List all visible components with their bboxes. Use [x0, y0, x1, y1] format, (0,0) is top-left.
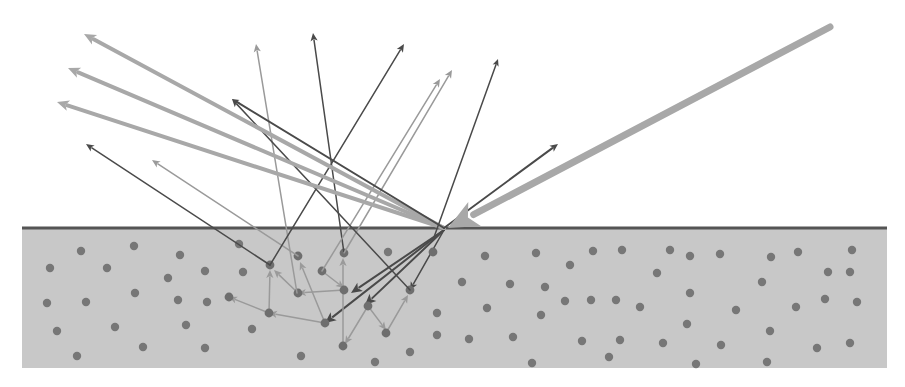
substrate	[22, 228, 887, 368]
particle-dot	[541, 283, 549, 291]
particle-dot	[239, 268, 247, 276]
particle-dot	[433, 309, 441, 317]
particle-dot	[659, 339, 667, 347]
particle-dot	[77, 247, 85, 255]
particle-dot	[758, 278, 766, 286]
network-particle-dot	[340, 286, 349, 295]
particle-dot	[164, 274, 172, 282]
particle-dot	[73, 352, 81, 360]
network-particle-dot	[364, 302, 373, 311]
particle-dot	[686, 252, 694, 260]
ray-shaft	[344, 76, 448, 253]
particle-dot	[686, 289, 694, 297]
particle-dot	[139, 343, 147, 351]
particle-dot	[458, 278, 466, 286]
particle-dot	[103, 264, 111, 272]
reflected-ray-arrow	[84, 34, 444, 228]
particle-dot	[846, 268, 854, 276]
ray-shaft	[94, 39, 444, 228]
particle-dot	[176, 251, 184, 259]
network-particle-dot	[265, 309, 274, 318]
particle-dot	[589, 247, 597, 255]
arrowhead-icon	[86, 144, 95, 151]
particle-dot	[853, 298, 861, 306]
particle-dot	[846, 339, 854, 347]
particle-dot	[766, 327, 774, 335]
arrowhead-icon	[433, 79, 440, 88]
particle-dot	[131, 289, 139, 297]
network-particle-dot	[294, 289, 303, 298]
particle-dot	[384, 248, 392, 256]
particle-dot	[43, 299, 51, 307]
particle-dot	[732, 306, 740, 314]
particle-dot	[82, 298, 90, 306]
particle-dot	[53, 327, 61, 335]
particle-dot	[716, 250, 724, 258]
particle-dot	[763, 358, 771, 366]
particle-dot	[813, 344, 821, 352]
particle-dot	[692, 360, 700, 368]
particle-dot	[636, 303, 644, 311]
particle-dot	[561, 297, 569, 305]
particle-dot	[618, 246, 626, 254]
particle-dot	[433, 331, 441, 339]
particle-dot	[792, 303, 800, 311]
particle-dot	[203, 298, 211, 306]
particle-dot	[666, 246, 674, 254]
particle-dot	[465, 335, 473, 343]
particle-dot	[481, 252, 489, 260]
particle-dot	[111, 323, 119, 331]
network-particle-dot	[339, 342, 348, 351]
particle-dot	[371, 358, 379, 366]
particle-dot	[605, 353, 613, 361]
particle-dot	[174, 296, 182, 304]
particle-dot	[821, 295, 829, 303]
ray-shaft	[269, 277, 270, 313]
reflected-ray-arrow	[68, 68, 444, 228]
particle-dot	[509, 333, 517, 341]
ray-shaft	[314, 40, 344, 253]
emerging-ray-arrow	[311, 33, 344, 253]
incident-ray-arrow	[448, 27, 830, 228]
particle-dot	[46, 264, 54, 272]
particle-dot	[528, 359, 536, 367]
particle-dot	[612, 296, 620, 304]
particle-dot	[616, 336, 624, 344]
diagram-canvas	[0, 0, 905, 387]
particle-dot	[683, 320, 691, 328]
particle-dot	[566, 261, 574, 269]
substrate-block	[22, 228, 887, 368]
network-particle-dot	[225, 293, 234, 302]
particle-dot	[248, 325, 256, 333]
particle-dot	[297, 352, 305, 360]
particle-dot	[130, 242, 138, 250]
incident-ray	[448, 27, 830, 228]
network-particle-dot	[429, 248, 438, 257]
particle-dot	[406, 348, 414, 356]
network-particle-dot	[321, 319, 330, 328]
particle-dot	[201, 344, 209, 352]
particle-dot	[653, 269, 661, 277]
particle-dot	[201, 267, 209, 275]
light-scattering-diagram	[0, 0, 905, 387]
ray-shaft	[474, 27, 830, 214]
ray-shaft	[78, 72, 444, 228]
particle-dot	[767, 253, 775, 261]
particle-dot	[483, 304, 491, 312]
particle-dot	[506, 280, 514, 288]
particle-dot	[537, 311, 545, 319]
particle-dot	[587, 296, 595, 304]
ray-shaft	[237, 102, 444, 228]
particle-dot	[717, 341, 725, 349]
particle-dot	[532, 249, 540, 257]
particle-dot	[578, 337, 586, 345]
network-particle-dot	[382, 329, 391, 338]
arrowhead-icon	[152, 160, 161, 167]
particle-dot	[182, 321, 190, 329]
particle-dot	[824, 268, 832, 276]
particle-dot	[794, 248, 802, 256]
particle-dot	[848, 246, 856, 254]
